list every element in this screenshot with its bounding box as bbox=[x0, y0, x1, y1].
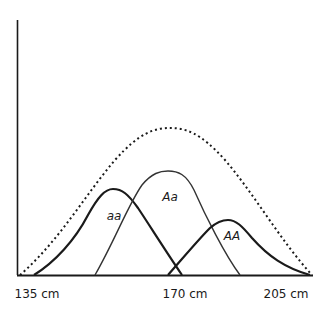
x-tick-205: 205 cm bbox=[263, 287, 308, 301]
label-Aa: Aa bbox=[162, 190, 178, 204]
chart-canvas bbox=[0, 0, 330, 312]
x-tick-135: 135 cm bbox=[14, 287, 59, 301]
label-AA: AA bbox=[224, 229, 240, 243]
label-aa: aa bbox=[107, 209, 122, 223]
curve-aa bbox=[34, 189, 182, 275]
x-tick-170: 170 cm bbox=[162, 287, 207, 301]
